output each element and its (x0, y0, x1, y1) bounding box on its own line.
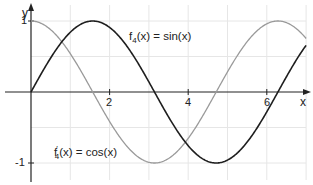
y-tick-minus1-label: -1 (15, 157, 25, 168)
x-tick-6-label: 6 (264, 97, 270, 108)
sin-rest: (x) = sin(x) (137, 30, 192, 42)
function-plot (0, 0, 313, 185)
cos-function-label: f′4(x) = cos(x) (54, 145, 117, 161)
sin-function-label: f4(x) = sin(x) (129, 31, 191, 45)
x-tick-2-label: 2 (106, 97, 112, 108)
x-tick-4-label: 4 (185, 97, 191, 108)
x-axis-label: x (300, 96, 306, 108)
cos-rest: (x) = cos(x) (59, 146, 117, 158)
y-tick-1-label: 1 (21, 15, 27, 26)
